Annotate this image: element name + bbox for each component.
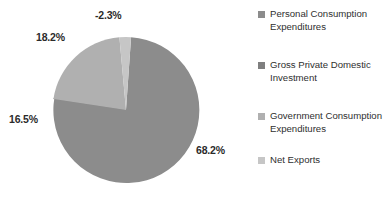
pie-chart-figure: -2.3% 18.2% 16.5% 68.2% Personal Consump… — [0, 0, 391, 202]
chart-legend: Personal Consumption Expenditures Gross … — [258, 4, 391, 202]
data-label-gross-private-domestic-investment: 16.5% — [9, 113, 38, 125]
data-label-personal-consumption-expenditures: 68.2% — [196, 144, 225, 156]
data-label-net-exports: -2.3% — [95, 9, 121, 21]
pie-plot-area: -2.3% 18.2% 16.5% 68.2% — [0, 0, 250, 202]
legend-swatch-icon — [258, 113, 265, 120]
legend-swatch-icon — [258, 11, 265, 18]
legend-item-label: Personal Consumption Expenditures — [270, 8, 388, 33]
legend-item-label: Net Exports — [270, 154, 320, 167]
legend-item-gross-private-domestic-investment[interactable]: Gross Private Domestic Investment — [258, 59, 388, 84]
legend-item-label: Government Consumption Expenditures — [270, 110, 388, 135]
legend-swatch-icon — [258, 62, 265, 69]
pie-slice-government-consumption-expenditures[interactable] — [53, 37, 126, 110]
legend-swatch-icon — [258, 157, 265, 164]
legend-item-net-exports[interactable]: Net Exports — [258, 154, 320, 167]
data-label-government-consumption-expenditures: 18.2% — [36, 31, 65, 43]
legend-item-personal-consumption-expenditures[interactable]: Personal Consumption Expenditures — [258, 8, 388, 33]
legend-item-label: Gross Private Domestic Investment — [270, 59, 388, 84]
legend-item-government-consumption-expenditures[interactable]: Government Consumption Expenditures — [258, 110, 388, 135]
